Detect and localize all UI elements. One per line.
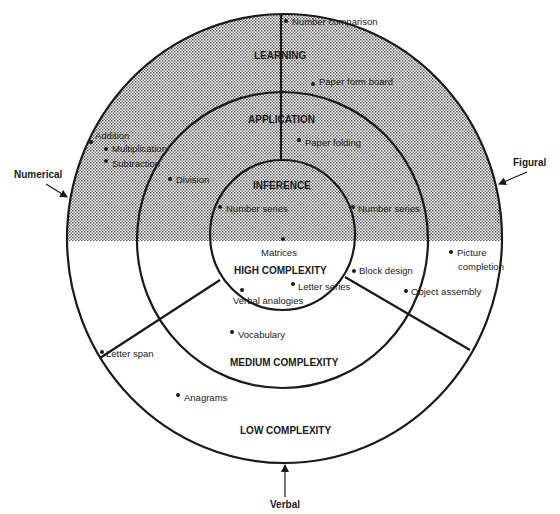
test-label: Object assembly (411, 286, 481, 297)
axis-label-verbal: Verbal (270, 499, 300, 510)
point-marker (240, 288, 244, 292)
zone-label-learning: LEARNING (254, 50, 306, 61)
divider-verbal-numerical (100, 280, 220, 358)
point-marker (230, 330, 234, 334)
test-label: Number series (358, 203, 420, 214)
test-label-line-1: Picture (457, 247, 487, 258)
point-marker (168, 177, 172, 181)
point-marker (284, 19, 288, 23)
test-paper-folding: Paper folding (297, 137, 361, 148)
point-marker (404, 289, 408, 293)
zone-label-low-complexity: LOW COMPLEXITY (240, 425, 331, 436)
test-label: Anagrams (184, 392, 228, 403)
test-label: Subtraction (112, 158, 160, 169)
test-label-line-2: completion (458, 261, 504, 272)
test-label: Paper form board (319, 76, 393, 87)
radex-diagram: Numerical Figural Verbal LEARNING APPLIC… (0, 0, 560, 514)
point-marker (449, 250, 453, 254)
point-marker (176, 393, 180, 397)
point-marker (218, 205, 222, 209)
test-label: Addition (95, 130, 129, 141)
test-number-series-right: Number series (351, 203, 420, 214)
point-marker (104, 159, 108, 163)
point-marker (291, 282, 295, 286)
point-marker (352, 269, 356, 273)
test-label: Vocabulary (238, 329, 285, 340)
radex-svg: Numerical Figural Verbal LEARNING APPLIC… (0, 0, 560, 514)
test-number-comparison: Number comparison (284, 16, 378, 27)
point-marker (281, 237, 285, 241)
test-label: Paper folding (305, 137, 361, 148)
test-label: Letter span (106, 348, 154, 359)
test-verbal-analogies: Verbal analogies (233, 288, 303, 306)
test-label: Number comparison (292, 16, 378, 27)
zone-label-medium-complexity: MEDIUM COMPLEXITY (230, 357, 339, 368)
test-label: Block design (359, 265, 413, 276)
test-letter-series: Letter series (291, 281, 351, 292)
test-label: Division (176, 174, 209, 185)
test-label: Letter series (298, 281, 351, 292)
zone-label-high-complexity: HIGH COMPLEXITY (234, 265, 327, 276)
test-picture-completion: Picture completion (449, 247, 504, 272)
test-label: Verbal analogies (233, 295, 303, 306)
test-object-assembly: Object assembly (404, 286, 481, 297)
numerical-arrow-icon (46, 184, 67, 197)
figural-arrow-icon (499, 172, 527, 184)
test-label: Matrices (261, 247, 297, 258)
test-letter-span: Letter span (100, 348, 154, 359)
test-anagrams: Anagrams (176, 392, 228, 403)
test-paper-form-board: Paper form board (311, 76, 393, 87)
test-block-design: Block design (352, 265, 413, 276)
axis-label-numerical: Numerical (14, 169, 63, 180)
test-label: Number series (226, 203, 288, 214)
test-vocabulary: Vocabulary (230, 329, 285, 340)
zone-label-application: APPLICATION (248, 114, 315, 125)
test-multiplication: Multiplication (104, 143, 167, 154)
zone-label-inference: INFERENCE (253, 180, 311, 191)
point-marker (311, 82, 315, 86)
test-label: Multiplication (112, 143, 167, 154)
axis-label-figural: Figural (513, 157, 547, 168)
point-marker (297, 138, 301, 142)
point-marker (104, 147, 108, 151)
point-marker (100, 350, 104, 354)
test-subtraction: Subtraction (104, 158, 160, 169)
test-number-series-left: Number series (218, 203, 288, 214)
point-marker (351, 205, 355, 209)
point-marker (89, 140, 93, 144)
